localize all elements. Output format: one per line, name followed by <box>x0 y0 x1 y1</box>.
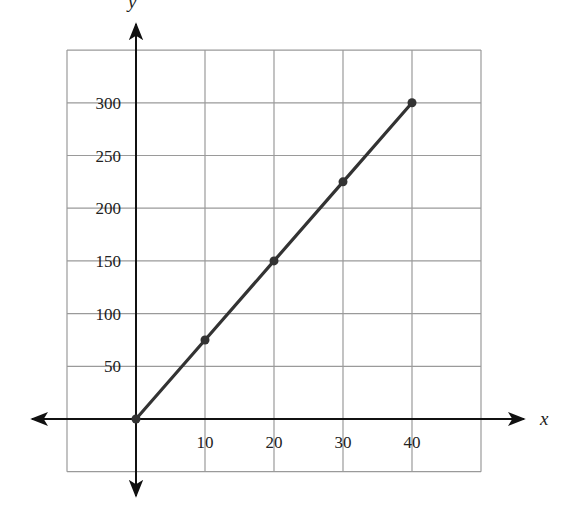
y-tick-label: 200 <box>96 199 122 218</box>
x-tick-label: 20 <box>266 433 283 452</box>
data-point <box>339 177 348 186</box>
y-tick-label: 300 <box>96 94 122 113</box>
x-axis-label: x <box>539 408 549 429</box>
y-tick-label: 250 <box>96 147 122 166</box>
y-tick-label: 150 <box>96 252 122 271</box>
x-tick-label: 10 <box>197 433 214 452</box>
y-axis-label: y <box>126 0 137 12</box>
data-point <box>408 98 417 107</box>
x-tick-label: 40 <box>404 433 421 452</box>
line-chart: 1020304050100150200250300 x y <box>0 0 561 514</box>
data-point <box>201 335 210 344</box>
data-point <box>132 415 141 424</box>
y-tick-label: 50 <box>104 357 121 376</box>
data-point <box>270 256 279 265</box>
y-tick-label: 100 <box>96 305 122 324</box>
x-tick-label: 30 <box>335 433 352 452</box>
